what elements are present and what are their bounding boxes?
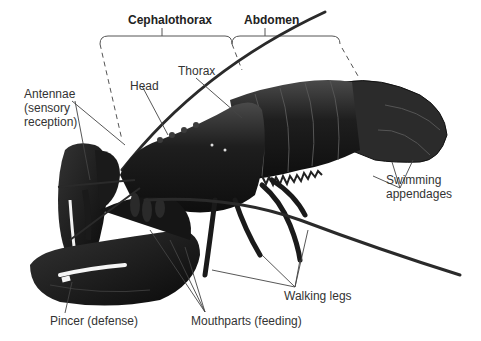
lobster-anatomy-diagram: Cephalothorax Abdomen Antennae (sensory …	[0, 0, 481, 341]
label-antennae-line2: (sensory	[24, 101, 70, 115]
label-antennae-line3: reception)	[24, 115, 77, 129]
label-head: Head	[130, 79, 159, 93]
label-walking-legs: Walking legs	[284, 289, 352, 303]
label-abdomen: Abdomen	[244, 13, 299, 27]
label-pincer: Pincer (defense)	[50, 314, 138, 328]
label-cephalothorax: Cephalothorax	[128, 13, 212, 27]
label-swimming-line1: Swimming	[386, 173, 441, 187]
lobster-illustration	[0, 0, 481, 341]
tail-fan	[345, 81, 447, 163]
carapace	[120, 102, 265, 212]
label-swimming-line2: appendages	[386, 187, 452, 201]
label-antennae-line1: Antennae	[24, 87, 75, 101]
label-thorax: Thorax	[178, 64, 215, 78]
label-mouthparts: Mouthparts (feeding)	[191, 314, 302, 328]
